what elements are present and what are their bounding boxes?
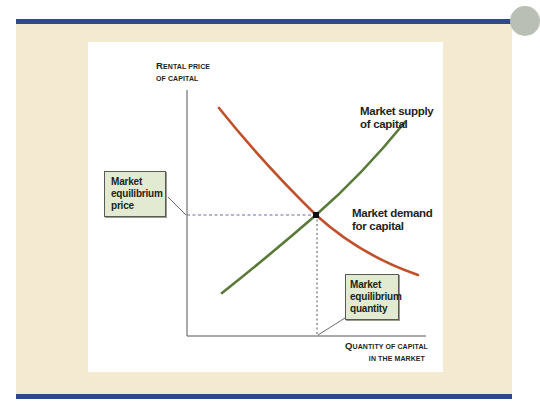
supply-curve-label: Market supply of capital	[360, 105, 433, 131]
demand-curve	[219, 108, 418, 275]
price-callout-leader	[168, 197, 186, 215]
equilibrium-quantity-callout: Market equilibrium quantity	[345, 274, 399, 320]
equilibrium-point	[313, 212, 319, 218]
equilibrium-price-callout: Market equilibrium price	[104, 171, 166, 217]
x-axis-label: Quantity of capital in the market	[345, 340, 425, 365]
quantity-callout-leader	[318, 318, 345, 335]
y-axis-label: Rental price of capital	[156, 60, 210, 85]
demand-curve-label: Market demand for capital	[352, 207, 432, 233]
